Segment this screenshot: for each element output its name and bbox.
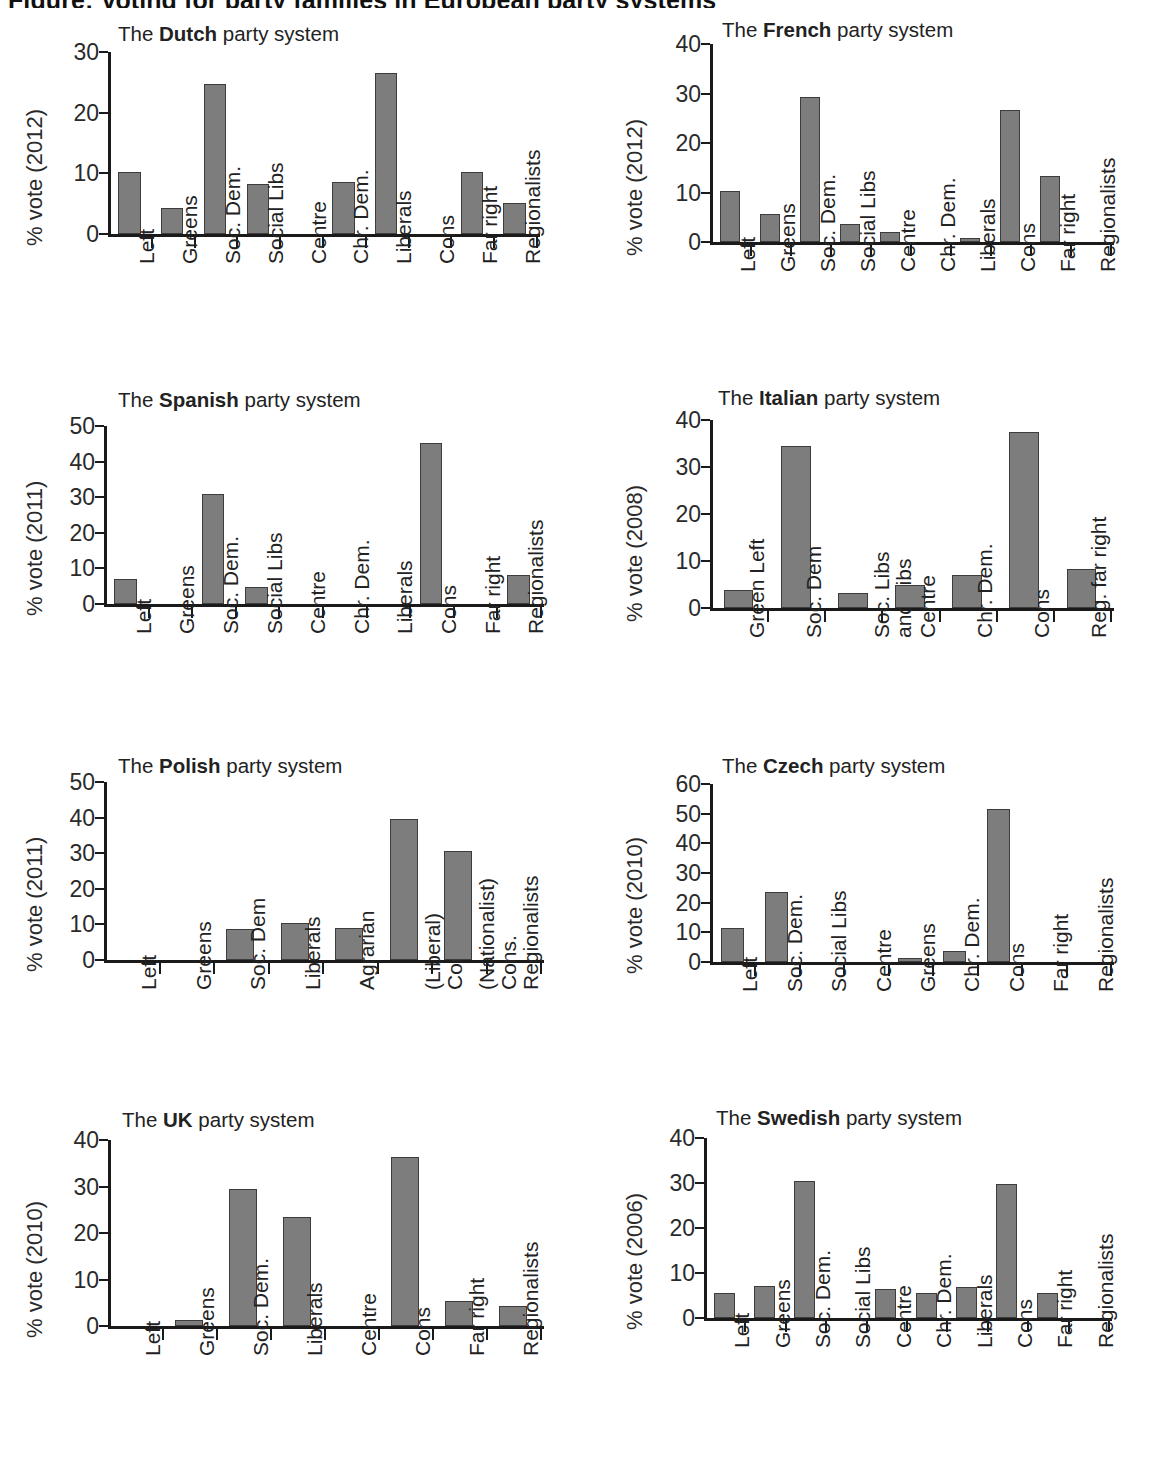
y-tick-label: 20 — [675, 132, 701, 155]
y-axis-label-czech: % vote (2010) — [622, 837, 648, 974]
chart-panel-uk: The UK party system% vote (2010)01020304… — [0, 1088, 600, 1470]
x-axis-category-label: Soc. Dem. — [812, 1250, 834, 1348]
chart-title-suffix: party system — [823, 754, 945, 777]
y-tick-mark — [701, 813, 710, 815]
chart-title-suffix: party system — [193, 1108, 315, 1131]
x-axis-category-label: Greens — [176, 565, 198, 634]
y-tick-mark — [95, 852, 104, 854]
chart-title-prefix: The — [118, 754, 159, 777]
y-tick-mark — [695, 1137, 704, 1139]
chart-panel-grid: The Dutch party system% vote (2012)01020… — [0, 8, 1154, 1470]
x-tick-mark — [996, 611, 998, 622]
y-tick-mark — [99, 1186, 108, 1188]
bar — [720, 191, 741, 242]
y-tick-label: 30 — [69, 842, 95, 865]
x-axis-category-label: Social Libs — [857, 170, 879, 272]
bar — [118, 172, 140, 234]
y-tick-mark — [99, 112, 108, 114]
y-axis-line — [710, 44, 713, 245]
x-axis-category-label: Left — [142, 1321, 164, 1356]
x-axis-category-label: Centre — [893, 1285, 915, 1348]
y-tick-label: 30 — [675, 862, 701, 885]
plot-area-french: 010203040LeftGreensSoc. Dem.Social LibsC… — [710, 44, 1110, 242]
plot-area-uk: 010203040LeftGreensSoc. Dem.LiberalsCent… — [108, 1140, 540, 1326]
x-axis-category-label: Greens — [196, 1287, 218, 1356]
x-axis-category-label: Cons — [1014, 1299, 1036, 1348]
chart-panel-italian: The Italian party system% vote (2008)010… — [600, 378, 1154, 748]
y-axis-line — [710, 784, 713, 965]
y-tick-label: 50 — [675, 802, 701, 825]
y-tick-mark — [701, 466, 710, 468]
y-tick-label: 40 — [73, 1129, 99, 1152]
x-axis-category-label: Liberals — [302, 916, 324, 990]
x-axis-category-label: Far right — [479, 186, 501, 264]
x-axis-category-label: Social Libs — [265, 162, 287, 264]
y-tick-mark — [701, 241, 710, 243]
chart-title-suffix: party system — [840, 1106, 962, 1129]
chart-title-country: Swedish — [757, 1106, 840, 1129]
y-tick-label: 60 — [675, 773, 701, 796]
x-axis-category-label: Soc. Dem. — [784, 894, 806, 992]
chart-title-suffix: party system — [217, 22, 339, 45]
x-axis-category-label: Left — [737, 237, 759, 272]
y-tick-label: 10 — [69, 913, 95, 936]
chart-title-country: Spanish — [159, 388, 239, 411]
x-axis-category-label: Greens — [772, 1279, 794, 1348]
bar — [996, 1184, 1017, 1318]
plot-area-italian: 010203040Green LeftSoc. DemSoc. Libs and… — [710, 420, 1110, 608]
x-axis-category-label: Reg. far right — [1088, 517, 1110, 638]
y-tick-label: 40 — [675, 409, 701, 432]
plot-area-polish: 01020304050LeftGreensSoc. DemLiberalsAgr… — [104, 782, 540, 960]
x-axis-category-label: Greens — [777, 203, 799, 272]
chart-title-spanish: The Spanish party system — [118, 390, 361, 411]
x-axis-category-label: Left — [731, 1313, 753, 1348]
y-tick-mark — [99, 1325, 108, 1327]
x-axis-category-label: Left — [133, 599, 155, 634]
y-tick-mark — [701, 842, 710, 844]
x-axis-category-label: Cons — [1017, 223, 1039, 272]
x-axis-category-label: Left — [138, 955, 160, 990]
x-axis-category-label: Centre — [897, 209, 919, 272]
chart-title-swedish: The Swedish party system — [716, 1108, 962, 1129]
y-tick-label: 20 — [675, 891, 701, 914]
y-axis-label-french: % vote (2012) — [622, 119, 648, 256]
y-tick-mark — [99, 172, 108, 174]
x-axis-category-label: Social Libs — [264, 532, 286, 634]
chart-title-suffix: party system — [831, 18, 953, 41]
y-tick-mark — [701, 931, 710, 933]
plot-area-swedish: 010203040LeftGreensSoc. Dem.Social LibsC… — [704, 1138, 1108, 1318]
y-tick-mark — [695, 1317, 704, 1319]
bar — [444, 851, 472, 960]
y-tick-label: 30 — [675, 456, 701, 479]
x-axis-category-label: Centre — [307, 571, 329, 634]
y-axis-line — [108, 1140, 111, 1329]
chart-title-italian: The Italian party system — [718, 388, 940, 409]
x-axis-category-label: Liberals — [977, 198, 999, 272]
x-axis-category-label: Left — [739, 957, 761, 992]
x-axis-category-label: Centre — [308, 201, 330, 264]
y-axis-label-spanish: % vote (2011) — [22, 481, 48, 616]
y-tick-label: 20 — [675, 503, 701, 526]
y-tick-label: 30 — [669, 1172, 695, 1195]
plot-area-czech: 0102030405060LeftSoc. Dem.Social LibsCen… — [710, 784, 1110, 962]
chart-title-country: UK — [163, 1108, 193, 1131]
x-tick-mark — [1053, 611, 1055, 622]
y-axis-label-polish: % vote (2011) — [22, 837, 48, 972]
x-axis-category-label: Soc. Dem. — [250, 1258, 272, 1356]
plot-area-dutch: 0102030LeftGreensSoc. Dem.Social LibsCen… — [108, 52, 536, 234]
y-axis-label-dutch: % vote (2012) — [22, 109, 48, 246]
chart-title-prefix: The — [718, 386, 759, 409]
chart-panel-spanish: The Spanish party system% vote (2011)010… — [0, 378, 600, 748]
y-tick-mark — [701, 607, 710, 609]
chart-panel-czech: The Czech party system% vote (2010)01020… — [600, 748, 1154, 1088]
y-axis-label-swedish: % vote (2006) — [622, 1193, 648, 1330]
x-axis-category-label: (Nationalist) Cons. — [476, 878, 520, 990]
x-axis-category-label: Agrarian — [356, 911, 378, 990]
x-axis-category-label: Far right — [482, 556, 504, 634]
y-tick-mark — [95, 888, 104, 890]
chart-panel-swedish: The Swedish party system% vote (2006)010… — [600, 1088, 1154, 1470]
y-tick-label: 40 — [669, 1127, 695, 1150]
y-tick-label: 0 — [688, 951, 701, 974]
chart-title-prefix: The — [722, 18, 763, 41]
x-axis-category-label: Centre — [358, 1293, 380, 1356]
